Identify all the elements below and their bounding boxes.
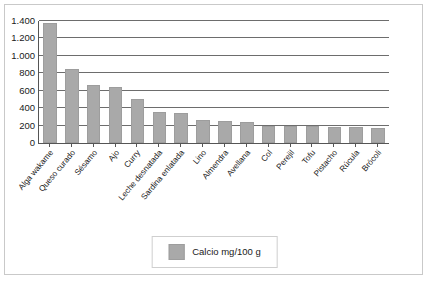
x-label-slot: Pistacho <box>322 147 344 217</box>
y-axis-tick-label: 200 <box>19 121 35 131</box>
x-label-slot: Tofu <box>301 147 323 217</box>
bar[interactable] <box>218 121 232 143</box>
bar[interactable] <box>153 112 167 143</box>
bar-slot <box>323 21 345 143</box>
x-label-slot: Queso curado <box>60 147 82 217</box>
x-axis-category-label: Perejil <box>275 149 296 172</box>
bar-slot <box>367 21 389 143</box>
bar[interactable] <box>174 113 188 143</box>
bar-slot <box>280 21 302 143</box>
bar-series <box>39 21 389 143</box>
bar-slot <box>192 21 214 143</box>
plot-area: 02004006008001.0001.2001.400 <box>38 21 389 144</box>
bar-slot <box>39 21 61 143</box>
bar[interactable] <box>109 87 123 143</box>
bar-slot <box>61 21 83 143</box>
bar-slot <box>83 21 105 143</box>
x-label-slot: Rúcula <box>344 147 366 217</box>
bar[interactable] <box>65 69 79 143</box>
x-axis-category-label: Ajo <box>107 149 121 163</box>
x-label-slot: Sardina enlatada <box>169 147 191 217</box>
bar[interactable] <box>306 126 320 143</box>
chart-plot-wrapper: 02004006008001.0001.2001.400 Alga wakame… <box>5 5 424 276</box>
x-label-slot: Almendra <box>213 147 235 217</box>
bar[interactable] <box>328 127 342 143</box>
bar[interactable] <box>87 85 101 143</box>
y-axis-tick-label: 0 <box>30 138 35 148</box>
x-axis-category-label: Col <box>260 149 274 164</box>
x-label-slot: Col <box>257 147 279 217</box>
bar[interactable] <box>284 126 298 143</box>
bar[interactable] <box>240 122 254 143</box>
x-axis-category-label: Lino <box>192 149 208 166</box>
bar[interactable] <box>262 126 276 143</box>
bar[interactable] <box>349 127 363 143</box>
bar-slot <box>170 21 192 143</box>
x-label-slot: Ajo <box>104 147 126 217</box>
bar-slot <box>258 21 280 143</box>
y-axis-tick-label: 1.200 <box>11 34 35 44</box>
legend-swatch-calcio <box>168 244 184 260</box>
bar-slot <box>127 21 149 143</box>
x-label-slot: Brócoli <box>366 147 388 217</box>
x-label-slot: Perejil <box>279 147 301 217</box>
x-label-slot: Avellana <box>235 147 257 217</box>
bar[interactable] <box>371 128 385 143</box>
bar-slot <box>214 21 236 143</box>
y-axis-tick-label: 800 <box>19 69 35 79</box>
bar[interactable] <box>131 99 145 143</box>
bar-slot <box>148 21 170 143</box>
chart-frame: 02004006008001.0001.2001.400 Alga wakame… <box>4 4 423 275</box>
bar-slot <box>105 21 127 143</box>
chart-legend: Calcio mg/100 g <box>151 236 278 268</box>
x-axis-category-label: Tofu <box>301 149 317 166</box>
bar[interactable] <box>196 120 210 143</box>
y-axis-tick-label: 400 <box>19 103 35 113</box>
x-label-slot: Lino <box>191 147 213 217</box>
y-axis-tick-label: 1.400 <box>11 16 35 26</box>
x-axis-category-label: Curry <box>124 149 143 170</box>
y-axis-tick-label: 600 <box>19 86 35 96</box>
x-label-slot: Sésamo <box>82 147 104 217</box>
legend-label-calcio: Calcio mg/100 g <box>192 247 261 257</box>
bar-slot <box>302 21 324 143</box>
y-axis-tick-label: 1.000 <box>11 51 35 61</box>
bar-slot <box>345 21 367 143</box>
bar-slot <box>236 21 258 143</box>
x-axis-labels: Alga wakameQueso curadoSésamoAjoCurryLec… <box>38 147 388 217</box>
bar[interactable] <box>43 23 57 143</box>
